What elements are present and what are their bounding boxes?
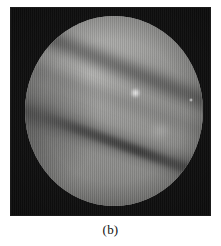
circular-field-of-view	[25, 16, 203, 206]
aperture-vignette	[25, 16, 203, 206]
figure-container: (b)	[0, 0, 221, 246]
figure-image-panel	[10, 7, 211, 216]
figure-caption: (b)	[0, 222, 221, 238]
